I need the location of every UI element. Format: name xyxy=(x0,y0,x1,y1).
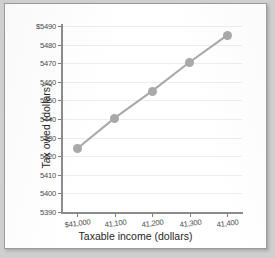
y-tick-label: 5390 xyxy=(40,208,56,217)
data-point xyxy=(223,31,232,40)
data-point xyxy=(110,114,119,123)
plot-area: $549054805470546054505440543054205410540… xyxy=(62,26,242,212)
x-axis-title: Taxable income (dollars) xyxy=(5,230,266,242)
series-line xyxy=(62,26,242,212)
y-tick-label: 5400 xyxy=(40,189,56,198)
y-tick-label: $5490 xyxy=(36,22,56,31)
x-tick-label: 41,100 xyxy=(104,218,127,230)
y-axis-line xyxy=(61,24,63,214)
chart-figure: $549054805470546054505440543054205410540… xyxy=(4,3,267,249)
data-point xyxy=(73,144,82,153)
y-tick-label: 5470 xyxy=(40,59,56,68)
x-tick-label: 41,300 xyxy=(179,218,202,230)
x-axis-line xyxy=(61,212,243,214)
y-tick-label: 5480 xyxy=(40,40,56,49)
y-tick-label: 5410 xyxy=(40,170,56,179)
y-axis-title: Tax owed (dollars) xyxy=(40,83,52,168)
x-tick-label: 41,400 xyxy=(216,218,239,230)
data-point xyxy=(148,87,157,96)
x-tick-label: $41,000 xyxy=(64,217,91,229)
data-point xyxy=(185,58,194,67)
x-tick-label: 41,200 xyxy=(141,218,164,230)
